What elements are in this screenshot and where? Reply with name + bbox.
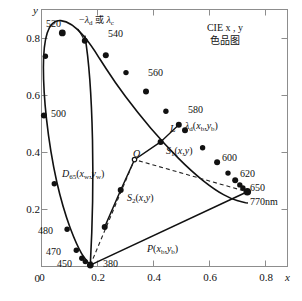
y-tick-label-0.4: 0.4 [14, 146, 40, 158]
x-tick-label-0.8: 0.8 [254, 271, 278, 283]
wl-label-620: 620 [240, 168, 255, 179]
wl-marker-610 [225, 170, 230, 175]
wl-marker-620 [232, 177, 238, 183]
point-label-D65: D65(xw,yw) [62, 168, 104, 179]
wl-label-770nm: 770nm [250, 196, 278, 207]
figure-title-line1: CIE x , y [185, 22, 265, 35]
wl-label-500: 500 [51, 108, 66, 119]
wl-marker-600 [214, 159, 220, 165]
y-axis-name: y [33, 4, 38, 16]
y-tick-label-0.6: 0.6 [14, 89, 40, 101]
point-marker-S1 [158, 139, 164, 145]
wl-label-650: 650 [250, 182, 265, 193]
wl-marker-490 [52, 181, 57, 186]
point-label-O: O [133, 148, 140, 159]
point-label-P: P(xb,yb) [147, 243, 178, 254]
figure-title-line2: 色品图 [185, 35, 265, 48]
y-tick-label-0: 0 [26, 272, 40, 284]
wl-marker-460 [79, 256, 84, 261]
x-axis-name: x [285, 271, 290, 283]
point-marker-P [102, 224, 108, 230]
point-label-S1: S1(x,y) [166, 145, 193, 156]
point-label-lambda-d-xb-yb: λd(xb,yb) [185, 120, 218, 131]
wl-marker-380 [87, 262, 94, 269]
lambda-dominant-complementary-label: −λd 或 λc [79, 13, 114, 26]
point-label-L: L [170, 123, 176, 134]
cie-chromaticity-figure: 0 0.2 0.4 0.6 0.8 x 0 0.2 0.4 0.6 0.8 y … [0, 0, 302, 301]
wl-label-540: 540 [108, 28, 123, 39]
wl-marker-560 [143, 89, 149, 95]
wl-label-450: 450 [57, 258, 72, 269]
wl-marker-500 [41, 112, 47, 118]
y-tick-label-0.2: 0.2 [14, 203, 40, 215]
wl-marker-480 [64, 227, 69, 232]
wl-label-560: 560 [148, 67, 163, 78]
wl-label-580: 580 [188, 104, 203, 115]
point-label-S2: S2(x,y) [127, 192, 154, 203]
x-tick-label-0.4: 0.4 [142, 271, 166, 283]
wl-label-470: 470 [46, 246, 61, 257]
wl-marker-590 [200, 145, 205, 150]
wl-marker-550 [123, 70, 128, 75]
wl-label-380: 380 [103, 258, 118, 269]
wl-marker-470 [74, 248, 79, 253]
x-tick-label-0.6: 0.6 [198, 271, 222, 283]
point-marker-L [176, 122, 182, 128]
wl-marker-510 [43, 54, 48, 59]
wl-marker-540 [103, 52, 109, 58]
point-marker-S2 [118, 187, 124, 193]
y-tick-label-0.8: 0.8 [14, 32, 40, 44]
figure-title: CIE x , y 色品图 [185, 22, 265, 47]
x-tick-label-0.2: 0.2 [86, 271, 110, 283]
wl-marker-520 [59, 30, 66, 37]
wl-marker-570 [163, 109, 168, 114]
wl-label-480: 480 [38, 225, 53, 236]
wl-label-520: 520 [46, 18, 61, 29]
wl-label-600: 600 [222, 152, 237, 163]
